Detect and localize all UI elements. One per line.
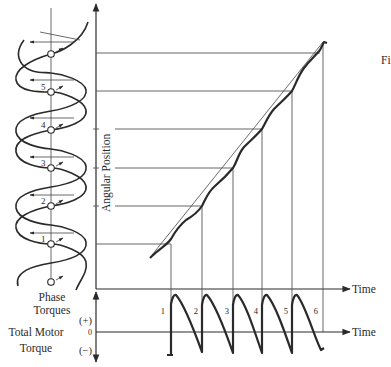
phase-label: Phase — [39, 291, 66, 303]
rotor-circle-icon — [48, 279, 55, 286]
helix-step-label: 1 — [41, 234, 46, 244]
rotor-circle-icon — [48, 89, 55, 96]
helix-step-label: 3 — [41, 158, 46, 168]
helix-top-segment — [40, 32, 80, 40]
helix-step-label: 5 — [41, 82, 46, 92]
torque-x-axis-label: Time — [352, 326, 376, 338]
plus-label: (+) — [79, 315, 92, 327]
torque-y-label-line1: Total Motor — [8, 326, 63, 338]
minus-label: (−) — [79, 345, 92, 357]
position-x-axis-label: Time — [352, 283, 376, 295]
actual-position-curve — [150, 42, 327, 258]
torque-y-label-line2: Torque — [20, 342, 52, 355]
torque-step-label: 1 — [161, 306, 165, 316]
figure-caption-fragment: Fi — [381, 54, 391, 66]
rotor-circle-icon — [48, 203, 55, 210]
position-plot: Time 0 Angular Position — [93, 4, 376, 332]
rotor-circle-icon — [48, 165, 55, 172]
rotor-circle-icon — [48, 241, 55, 248]
position-y-axis-label: Angular Position — [100, 133, 113, 212]
helix-diagram: 5 4 3 2 1 Phase Torques — [16, 8, 88, 317]
torque-step-label: 2 — [194, 306, 198, 316]
torque-step-label: 3 — [225, 306, 229, 316]
torque-step-label: 4 — [254, 306, 259, 316]
torque-sawtooth-curve — [167, 295, 324, 355]
helix-step-label: 4 — [41, 120, 46, 130]
ideal-position-line — [152, 42, 323, 255]
rotor-circle-icon — [48, 51, 55, 58]
motion-arrow-icon — [56, 276, 63, 280]
motion-arrow-icon — [56, 238, 63, 242]
stepper-motor-diagram: 5 4 3 2 1 Phase Torques Tim — [0, 0, 391, 367]
motion-arrow-icon — [56, 86, 63, 90]
rotor-markers — [48, 48, 63, 285]
motion-arrow-icon — [56, 162, 63, 166]
torque-step-label: 6 — [314, 306, 318, 316]
rotor-circle-icon — [48, 127, 55, 134]
torques-label: Torques — [34, 304, 71, 317]
zero-label: 0 — [88, 328, 92, 337]
helix-step-label: 2 — [41, 196, 46, 206]
torque-step-label: 5 — [284, 306, 288, 316]
